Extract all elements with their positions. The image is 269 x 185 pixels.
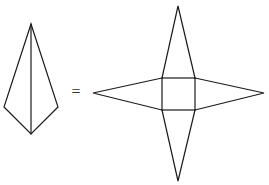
net-triangle-right	[195, 78, 264, 110]
net-triangle-top	[162, 6, 195, 78]
net-square-base	[162, 78, 195, 110]
pyramid-net	[93, 6, 264, 181]
net-triangle-left	[93, 78, 162, 110]
net-triangle-bottom	[162, 110, 195, 181]
equals-sign: =	[70, 84, 82, 100]
pyramid-figure	[4, 24, 58, 134]
diagram-canvas	[0, 0, 269, 185]
